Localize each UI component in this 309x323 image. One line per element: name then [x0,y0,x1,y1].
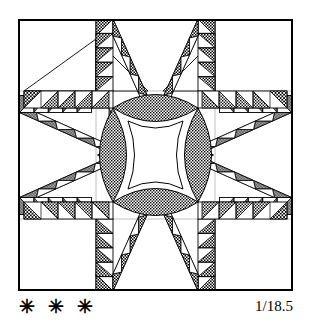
quilt-block-svg [18,19,293,291]
h-band-top-right [198,91,287,108]
caption-reference: 1/18.5 [255,299,294,314]
quilt-block-frame [18,19,293,291]
caption-bar: ✳ ✳ ✳ 1/18.5 [18,293,294,319]
h-band-bottom-left [24,202,113,219]
caption-stars: ✳ ✳ ✳ [18,297,97,316]
h-band-top-left [24,91,113,108]
center-medallion [100,95,212,216]
center-concave-square [128,121,183,189]
h-band-bottom-right [198,202,287,219]
figure-root: ✳ ✳ ✳ 1/18.5 [0,0,309,323]
